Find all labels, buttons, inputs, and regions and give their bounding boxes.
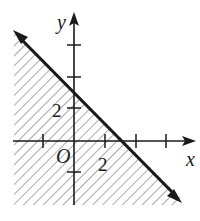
- y-axis-label: y: [57, 12, 66, 32]
- inequality-graph: [0, 0, 200, 221]
- x-axis-label: x: [186, 149, 195, 169]
- origin-label: O: [56, 146, 70, 166]
- y-tick-label-2: 2: [52, 101, 62, 120]
- x-tick-label-2: 2: [98, 155, 108, 174]
